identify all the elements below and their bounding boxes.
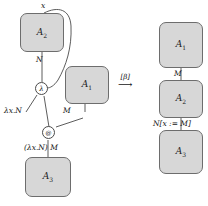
- box-a3-bottom-left-label: A3: [43, 171, 54, 183]
- box-a1-top-right-label: A1: [176, 39, 187, 51]
- box-a2-top-left-label: A2: [37, 27, 48, 39]
- edge-label-substitution: N[x := M]: [153, 119, 191, 128]
- box-a1-middle-left-label: A1: [82, 79, 93, 91]
- lambda-node: λ: [35, 82, 48, 95]
- edge-m-to-app: [56, 118, 83, 127]
- edge-label-m-right: M: [174, 69, 182, 78]
- arrow-shaft-icon: ⟶: [118, 81, 132, 89]
- edge-lambda-to-app-left: [26, 95, 37, 112]
- box-a1-middle-left: A1: [65, 66, 109, 104]
- edge-label-x: x: [41, 1, 45, 10]
- term-lambda-x-n: λx.N: [4, 106, 22, 115]
- box-a1-top-right: A1: [159, 22, 203, 68]
- term-redex: (λx.N) M: [24, 143, 58, 152]
- edge-label-m: M: [63, 106, 71, 115]
- edge-label-n: N: [36, 55, 43, 64]
- box-a2-middle-right-label: A2: [176, 93, 187, 105]
- box-a2-middle-right: A2: [159, 80, 203, 118]
- box-a3-bottom-right-label: A3: [176, 146, 187, 158]
- application-node: @: [42, 126, 55, 139]
- box-a2-top-left: A2: [20, 13, 64, 52]
- edge-lambda-to-app: [44, 96, 49, 127]
- reduction-arrow: [β] ⟶: [118, 73, 132, 89]
- box-a3-bottom-right: A3: [159, 130, 203, 174]
- beta-reduction-figure: A2 x N λ A1 M λx.N @ (λx.N) M A3 [β] ⟶ A…: [0, 0, 208, 206]
- box-a3-bottom-left: A3: [25, 157, 71, 197]
